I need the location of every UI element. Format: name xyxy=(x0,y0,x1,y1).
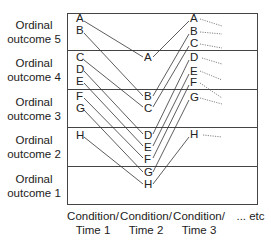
svg-text:H: H xyxy=(144,178,152,190)
svg-text:E: E xyxy=(76,75,84,87)
svg-text:A: A xyxy=(144,51,152,63)
svg-text:F: F xyxy=(144,153,151,165)
svg-text:H: H xyxy=(190,128,198,140)
svg-text:F: F xyxy=(190,76,197,88)
continuation-dotted-lines xyxy=(200,19,222,137)
x-label-etc: ... etc xyxy=(230,209,271,223)
connector-lines xyxy=(84,21,189,184)
label-line: Condition/ xyxy=(168,209,230,223)
svg-text:A: A xyxy=(76,12,84,24)
svg-text:D: D xyxy=(190,51,198,63)
diagram-canvas: AB CDE FG H A BC DEF GH ABC DEF G H xyxy=(0,0,271,240)
subject-letters: AB CDE FG H A BC DEF GH ABC DEF G H xyxy=(76,12,199,190)
svg-text:H: H xyxy=(76,129,84,141)
svg-text:B: B xyxy=(190,25,198,37)
svg-text:B: B xyxy=(144,90,152,102)
label-line: Time 3 xyxy=(168,223,230,237)
svg-text:B: B xyxy=(76,24,84,36)
svg-text:E: E xyxy=(144,141,152,153)
svg-text:A: A xyxy=(190,12,198,24)
svg-text:D: D xyxy=(76,63,84,75)
svg-text:C: C xyxy=(144,102,152,114)
svg-text:G: G xyxy=(144,166,153,178)
outcome-box xyxy=(68,14,258,205)
svg-text:D: D xyxy=(144,129,152,141)
svg-text:F: F xyxy=(76,90,83,102)
x-label-time-3: Condition/ Time 3 xyxy=(168,209,230,237)
svg-text:G: G xyxy=(190,91,199,103)
svg-text:C: C xyxy=(190,37,198,49)
svg-text:G: G xyxy=(76,102,85,114)
svg-text:C: C xyxy=(76,51,84,63)
